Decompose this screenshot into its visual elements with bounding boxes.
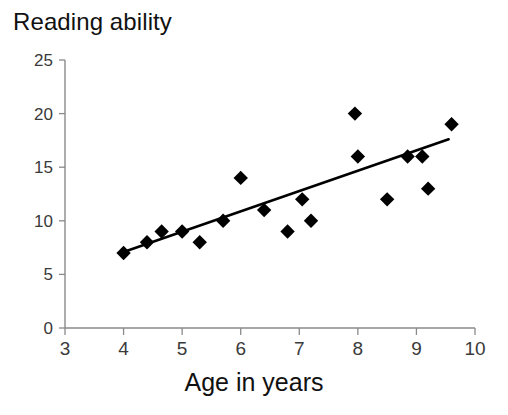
data-point-marker [295, 192, 309, 206]
data-point-marker [304, 214, 318, 228]
data-point-marker [348, 106, 362, 120]
data-point-marker [193, 235, 207, 249]
y-axis-ticks: 0510152025 [34, 51, 65, 338]
y-tick-label: 15 [34, 158, 53, 177]
axes [65, 60, 475, 328]
x-tick-label: 6 [235, 338, 246, 359]
x-axis-ticks: 345678910 [60, 328, 486, 359]
data-point-marker [175, 224, 189, 238]
x-tick-label: 10 [464, 338, 485, 359]
y-tick-label: 25 [34, 51, 53, 70]
x-tick-label: 5 [177, 338, 188, 359]
trend-line [121, 139, 449, 253]
scatter-chart: Reading ability 0510152025 345678910 Age… [0, 0, 508, 415]
x-tick-label: 4 [118, 338, 129, 359]
x-tick-label: 3 [60, 338, 71, 359]
x-tick-label: 8 [353, 338, 364, 359]
data-point-marker [421, 181, 435, 195]
y-tick-label: 5 [44, 265, 53, 284]
data-point-marker [351, 149, 365, 163]
y-tick-label: 10 [34, 212, 53, 231]
x-tick-label: 9 [411, 338, 422, 359]
y-tick-label: 20 [34, 105, 53, 124]
data-point-marker [280, 224, 294, 238]
data-point-marker [234, 171, 248, 185]
data-point-marker [380, 192, 394, 206]
data-point-marker [116, 246, 130, 260]
x-axis-label: Age in years [0, 368, 508, 397]
plot-canvas: 0510152025 345678910 [0, 0, 508, 415]
data-point-marker [444, 117, 458, 131]
trend-line-group [121, 139, 449, 253]
data-point-marker [140, 235, 154, 249]
y-tick-label: 0 [44, 319, 53, 338]
x-tick-label: 7 [294, 338, 305, 359]
